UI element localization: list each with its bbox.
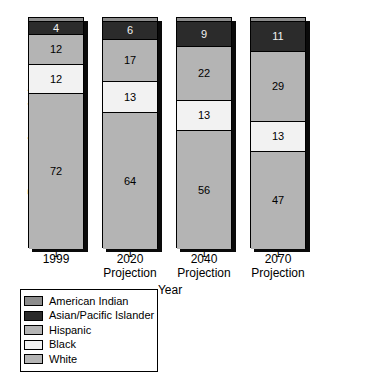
segment-value: 13 [272,131,284,142]
segment-value: 29 [272,81,284,92]
segment-black[interactable]: 13 [251,122,305,152]
segment-black[interactable]: 13 [177,101,231,131]
legend-swatch-icon [24,296,43,306]
x-tick-year: 1999 [43,252,70,266]
segment-asian-pacific-islander[interactable]: 11 [251,22,305,52]
legend-item-black[interactable]: Black [24,338,153,352]
legend-item-label: Black [49,339,76,350]
legend-item-label: Asian/Pacific Islander [49,310,154,321]
segment-hispanic[interactable]: 29 [251,52,305,122]
segment-value: 47 [272,195,284,206]
segment-hispanic[interactable]: 22 [177,47,231,101]
segment-value: 13 [124,92,136,103]
x-tick-year: 2020 [117,252,144,266]
legend: American Indian Asian/Pacific Islander H… [20,289,158,372]
segment-white[interactable]: 56 [177,131,231,249]
segment-value: 72 [50,166,62,177]
segment-asian-pacific-islander[interactable]: 4 [29,22,83,35]
segment-value: 13 [198,110,210,121]
segment-value: 56 [198,185,210,196]
segment-value: 6 [127,25,133,36]
segment-value: 4 [53,23,59,34]
segment-value: 12 [50,74,62,85]
x-axis-tick-labels: 1999 2020 Projection 2040 Projection 207… [26,252,326,286]
segment-white[interactable]: 64 [103,113,157,249]
segment-value: 9 [201,29,207,40]
x-tick-year: 2070 [265,252,292,266]
plot-area: 1 4 12 12 72 1 [26,6,326,248]
stacked-bar[interactable]: 9 22 13 56 [176,17,232,248]
legend-item-label: White [49,354,77,365]
segment-asian-pacific-islander[interactable]: 9 [177,22,231,47]
segment-value: 22 [198,68,210,79]
segment-value: 64 [124,176,136,187]
segment-asian-pacific-islander[interactable]: 6 [103,22,157,40]
stacked-bar-chart-figure: Percent of population 1 4 12 12 72 [0,0,367,375]
stacked-bar[interactable]: 4 12 12 72 [28,17,84,248]
segment-black[interactable]: 13 [103,82,157,113]
segment-value: 17 [124,55,136,66]
legend-item-asian-pacific-islander[interactable]: Asian/Pacific Islander [24,309,153,323]
legend-item-label: Hispanic [49,325,91,336]
legend-item-hispanic[interactable]: Hispanic [24,323,153,337]
legend-swatch-icon [24,325,43,335]
segment-white[interactable]: 47 [251,152,305,249]
stacked-bar[interactable]: 11 29 13 47 [250,17,306,248]
segment-hispanic[interactable]: 17 [103,40,157,82]
x-tick-sub: Projection [233,266,323,280]
legend-item-white[interactable]: White [24,352,153,366]
x-tick-2070: 2070 Projection [233,252,323,280]
legend-item-american-indian[interactable]: American Indian [24,294,153,308]
segment-white[interactable]: 72 [29,94,83,249]
segment-black[interactable]: 12 [29,65,83,94]
x-tick-year: 2040 [191,252,218,266]
segment-value: 12 [50,44,62,55]
legend-swatch-icon [24,340,43,350]
stacked-bar[interactable]: 6 17 13 64 [102,17,158,248]
legend-swatch-icon [24,354,43,364]
segment-value: 11 [272,31,283,42]
segment-hispanic[interactable]: 12 [29,35,83,65]
legend-item-label: American Indian [49,296,129,307]
legend-swatch-icon [24,311,43,321]
